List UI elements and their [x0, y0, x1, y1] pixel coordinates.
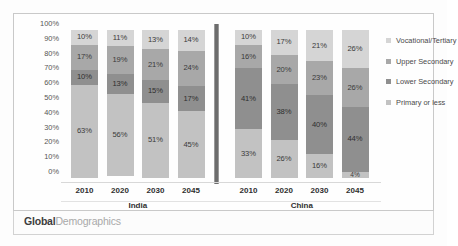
legend-item[interactable]: Upper Secondary: [386, 57, 458, 67]
legend-swatch-icon: [386, 79, 391, 84]
bar-column[interactable]: 21%23%40%16%: [306, 30, 333, 178]
segment-value-label: 41%: [241, 95, 256, 103]
bar-segment[interactable]: 23%: [306, 61, 333, 95]
chart-frame: 100%90%80%70%60%50%40%30%20%10%0% 10%17%…: [13, 13, 434, 211]
x-axis-tick: 2045: [342, 186, 369, 195]
y-axis: 100%90%80%70%60%50%40%30%20%10%0%: [27, 24, 59, 184]
y-axis-tick: 70%: [27, 64, 59, 72]
segment-value-label: 14%: [183, 36, 198, 44]
y-axis-tick: 80%: [27, 50, 59, 58]
stacked-bar: 13%21%15%51%: [142, 30, 169, 178]
bar-column[interactable]: 26%26%44%4%: [342, 30, 369, 178]
segment-value-label: 44%: [347, 135, 362, 143]
bar-segment[interactable]: 15%: [142, 80, 169, 102]
segment-value-label: 16%: [312, 162, 327, 170]
bar-segment[interactable]: 16%: [235, 45, 262, 69]
segment-value-label: 56%: [112, 131, 127, 139]
stacked-bar: 26%26%44%4%: [342, 30, 369, 178]
bar-segment[interactable]: 26%: [342, 30, 369, 68]
bar-column[interactable]: 17%20%38%26%: [271, 30, 298, 178]
bar-segment[interactable]: 4%: [342, 172, 369, 178]
group-divider: [214, 24, 219, 184]
bar-segment[interactable]: 17%: [178, 86, 205, 111]
globaldemographics-logo: GlobalDemographics: [24, 215, 121, 227]
bar-column[interactable]: 11%19%13%56%: [107, 30, 134, 178]
segment-value-label: 20%: [276, 66, 291, 74]
bar-segment[interactable]: 40%: [306, 95, 333, 154]
bar-segment[interactable]: 63%: [71, 85, 98, 178]
x-axis-tick: 2030: [306, 186, 333, 195]
segment-value-label: 45%: [183, 141, 198, 149]
legend: Vocational/TertiaryUpper SecondaryLower …: [386, 36, 458, 118]
segment-value-label: 17%: [183, 95, 198, 103]
segment-value-label: 13%: [112, 80, 127, 88]
segment-value-label: 26%: [347, 45, 362, 53]
x-axis-tick: 2020: [107, 186, 134, 195]
bar-segment[interactable]: 10%: [71, 30, 98, 45]
stacked-bar: 10%16%41%33%: [235, 30, 262, 178]
stacked-bar: 14%24%17%45%: [178, 30, 205, 178]
segment-value-label: 4%: [350, 172, 360, 178]
bar-segment[interactable]: 51%: [142, 103, 169, 178]
bar-column[interactable]: 10%16%41%33%: [235, 30, 262, 178]
x-axis-tick: 2030: [142, 186, 169, 195]
bar-column[interactable]: 13%21%15%51%: [142, 30, 169, 178]
stacked-bar: 11%19%13%56%: [107, 30, 134, 178]
bar-segment[interactable]: 10%: [71, 70, 98, 85]
stacked-bar: 21%23%40%16%: [306, 30, 333, 178]
bar-segment[interactable]: 13%: [142, 30, 169, 49]
x-axis-tick: 2010: [235, 186, 262, 195]
logo-bold-text: Global: [24, 215, 55, 227]
segment-value-label: 11%: [113, 34, 128, 42]
segment-value-label: 21%: [148, 61, 163, 69]
bar-segment[interactable]: 24%: [178, 51, 205, 87]
legend-label: Vocational/Tertiary: [396, 36, 458, 46]
legend-item[interactable]: Vocational/Tertiary: [386, 36, 458, 46]
bar-segment[interactable]: 16%: [306, 154, 333, 178]
segment-value-label: 63%: [77, 127, 92, 135]
bar-segment[interactable]: 33%: [235, 129, 262, 178]
bar-segment[interactable]: 44%: [342, 107, 369, 172]
bar-segment[interactable]: 13%: [107, 74, 134, 93]
y-axis-tick: 50%: [27, 94, 59, 102]
bar-segment[interactable]: 26%: [271, 140, 298, 178]
bar-segment[interactable]: 17%: [271, 30, 298, 55]
bar-segment[interactable]: 21%: [142, 49, 169, 80]
bar-segment[interactable]: 11%: [107, 30, 134, 46]
bar-segment[interactable]: 45%: [178, 111, 205, 178]
bar-segment[interactable]: 19%: [107, 46, 134, 74]
segment-value-label: 26%: [276, 155, 291, 163]
bar-segment[interactable]: 56%: [107, 94, 134, 177]
bar-segment[interactable]: 21%: [306, 30, 333, 61]
legend-label: Upper Secondary: [396, 57, 458, 67]
legend-item[interactable]: Lower Secondary: [386, 77, 458, 87]
x-axis-tick: 2045: [178, 186, 205, 195]
segment-value-label: 33%: [241, 150, 256, 158]
segment-value-label: 17%: [77, 53, 92, 61]
bar-segment[interactable]: 20%: [271, 55, 298, 84]
x-axis-band: 20102020203020452010202020302045: [61, 182, 381, 202]
bar-column[interactable]: 14%24%17%45%: [178, 30, 205, 178]
plot-area: 10%17%10%63%11%19%13%56%13%21%15%51%14%2…: [61, 30, 381, 178]
bar-segment[interactable]: 41%: [235, 68, 262, 129]
bar-segment[interactable]: 26%: [342, 68, 369, 106]
legend-swatch-icon: [386, 100, 391, 105]
y-axis-tick: 90%: [27, 35, 59, 43]
bar-segment[interactable]: 38%: [271, 84, 298, 140]
segment-value-label: 10%: [241, 33, 256, 41]
x-axis-tick: 2020: [271, 186, 298, 195]
legend-swatch-icon: [386, 38, 391, 43]
y-axis-tick: 40%: [27, 109, 59, 117]
bar-segment[interactable]: 10%: [235, 30, 262, 45]
bar-segment[interactable]: 17%: [71, 45, 98, 70]
segment-value-label: 21%: [312, 42, 327, 50]
legend-item[interactable]: Primary or less: [386, 98, 458, 108]
segment-value-label: 38%: [276, 108, 291, 116]
bar-column[interactable]: 10%17%10%63%: [71, 30, 98, 178]
legend-label: Lower Secondary: [396, 77, 458, 87]
x-axis-tick: 2010: [71, 186, 98, 195]
y-axis-tick: 20%: [27, 138, 59, 146]
logo-light-text: Demographics: [55, 215, 120, 227]
y-axis-tick: 10%: [27, 153, 59, 161]
bar-segment[interactable]: 14%: [178, 30, 205, 51]
